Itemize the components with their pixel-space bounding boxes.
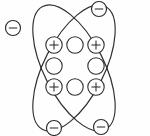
nucleus-particle-neutron-middle-right	[88, 58, 104, 74]
atom-model-figure: Atom model Planetary atom model with two…	[0, 0, 150, 136]
nucleus-particle-neutron-bottom-center	[67, 79, 83, 95]
nucleus-particle-proton-bottom-left	[46, 79, 62, 95]
electron-bottom-left	[47, 121, 62, 136]
neutron-circle	[67, 37, 83, 53]
nucleus-particle-proton-bottom-right	[88, 79, 104, 95]
neutron-circle	[88, 58, 104, 74]
orbits-group	[16, 0, 132, 136]
neutron-circle	[67, 79, 83, 95]
nucleus-group	[46, 37, 104, 95]
nucleus-particle-neutron-top-center	[67, 37, 83, 53]
atom-diagram-canvas	[0, 0, 150, 136]
nucleus-particle-proton-top-left	[46, 37, 62, 53]
electron-top-left	[6, 21, 21, 36]
nucleus-particle-neutron-middle-left	[46, 58, 62, 74]
neutron-circle	[46, 58, 62, 74]
electron-bottom-right	[94, 120, 109, 135]
electron-top-right	[92, 2, 107, 17]
nucleus-particle-proton-top-right	[88, 37, 104, 53]
